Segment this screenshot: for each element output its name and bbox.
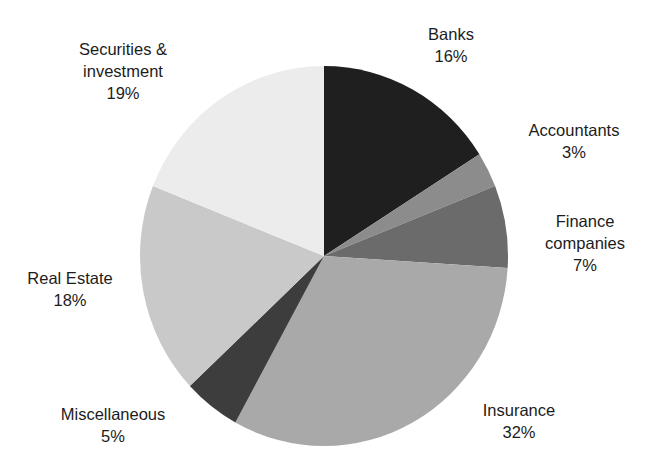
label-insurance: Insurance 32% <box>483 399 555 443</box>
label-misc-pct: 5% <box>61 425 166 447</box>
label-finance-name-2: companies <box>545 232 625 254</box>
label-securities-name-1: Securities & <box>79 38 167 60</box>
label-real-estate: Real Estate 18% <box>27 267 112 311</box>
label-finance-companies: Finance companies 7% <box>545 210 625 276</box>
label-accountants-pct: 3% <box>529 141 620 163</box>
label-miscellaneous: Miscellaneous 5% <box>61 403 166 447</box>
label-realestate-name: Real Estate <box>27 267 112 289</box>
label-insurance-name: Insurance <box>483 399 555 421</box>
label-securities-name-2: investment <box>79 60 167 82</box>
label-banks-name: Banks <box>428 23 474 45</box>
label-finance-pct: 7% <box>545 254 625 276</box>
label-misc-name: Miscellaneous <box>61 403 166 425</box>
label-insurance-pct: 32% <box>483 421 555 443</box>
label-realestate-pct: 18% <box>27 289 112 311</box>
label-banks: Banks 16% <box>428 23 474 67</box>
label-accountants: Accountants 3% <box>529 119 620 163</box>
label-securities-investment: Securities & investment 19% <box>79 38 167 104</box>
label-finance-name-1: Finance <box>545 210 625 232</box>
label-accountants-name: Accountants <box>529 119 620 141</box>
label-banks-pct: 16% <box>428 45 474 67</box>
label-securities-pct: 19% <box>79 82 167 104</box>
